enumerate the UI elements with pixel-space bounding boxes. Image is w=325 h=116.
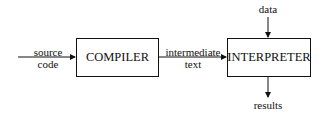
interpreter-label: INTERPRETER [227,50,310,65]
source-label-line2: code [33,59,63,70]
results-label: results [243,100,293,111]
intermediate-label-line2: text [160,59,226,70]
data-label: data [248,4,288,15]
interpreter-box: INTERPRETER [227,38,311,77]
intermediate-label-line1: intermediate [160,47,226,58]
source-label-line1: source [33,47,63,58]
compiler-box: COMPILER [76,38,159,77]
compiler-label: COMPILER [86,50,149,65]
